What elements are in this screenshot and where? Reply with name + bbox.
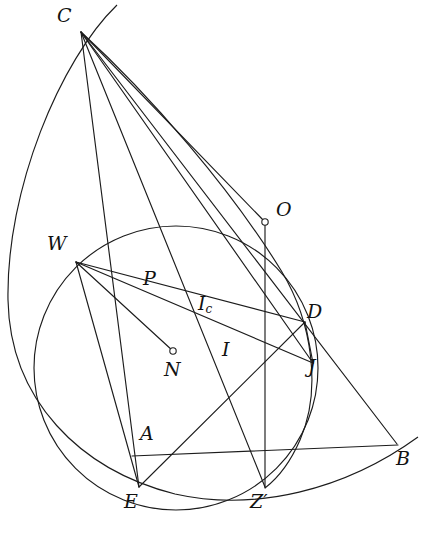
secondary-arc: [81, 32, 312, 488]
point-label-B: B: [396, 449, 410, 468]
point-label-P: P: [143, 269, 156, 288]
point-label-Zprime: Z′: [250, 492, 268, 511]
segment-C-Zprime: [81, 32, 265, 487]
point-marker-N: [170, 348, 176, 354]
point-label-Ic-base: I: [198, 292, 206, 314]
point-label-Ic-subscript: c: [206, 302, 213, 316]
point-marker-group: [170, 219, 268, 354]
point-label-I: I: [222, 340, 230, 359]
circumcircle-arc: [8, 5, 418, 500]
segment-W-N: [76, 262, 173, 351]
segment-W-D: [76, 262, 305, 322]
point-label-W: W: [47, 234, 67, 253]
circle-group: [8, 5, 418, 510]
line-group: [76, 32, 398, 488]
segment-C-O: [81, 32, 265, 222]
segment-W-E: [76, 262, 139, 487]
segment-C-B: [81, 32, 397, 444]
point-label-Ic: Ic: [198, 294, 212, 315]
geometry-canvas: [0, 0, 422, 538]
point-label-D: D: [307, 302, 322, 321]
point-label-J: J: [308, 357, 316, 376]
point-label-A: A: [140, 424, 154, 443]
point-label-N: N: [164, 360, 181, 379]
point-label-C: C: [57, 6, 72, 25]
geometry-figure: C O W P Ic D N I J A B E Z′: [0, 0, 422, 538]
segment-C-E: [81, 32, 139, 487]
point-label-E: E: [124, 492, 138, 511]
point-label-O: O: [276, 200, 292, 219]
point-marker-O: [262, 219, 268, 225]
